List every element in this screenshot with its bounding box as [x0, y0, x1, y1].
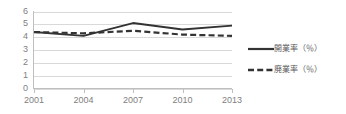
- x-axis-tick-label: 2013: [215, 96, 249, 105]
- y-axis-tick-label: 1: [14, 71, 28, 80]
- legend-swatch-solid-line: [248, 41, 274, 53]
- legend-item-haigyo: 廃業率（％）: [248, 61, 346, 75]
- legend-label-haigyo: 廃業率（％）: [274, 63, 322, 74]
- x-axis-tick-label: 2010: [166, 96, 200, 105]
- x-axis-tick-label: 2004: [67, 96, 101, 105]
- legend-item-kaigyo: 開業率（％）: [248, 40, 346, 54]
- chart-legend: 開業率（％） 廃業率（％）: [248, 40, 346, 80]
- y-axis-tick-label: 2: [14, 58, 28, 67]
- x-axis-tick-label: 2001: [17, 96, 51, 105]
- x-axis-tick-label: 2007: [116, 96, 150, 105]
- plot-area: 0123456 20012004200720102013: [0, 0, 240, 114]
- y-axis-tick-label: 3: [14, 45, 28, 54]
- chart-container: 0123456 20012004200720102013 開業率（％） 廃業率（…: [0, 0, 346, 114]
- legend-swatch-dashed-line: [248, 62, 274, 74]
- y-axis-tick-label: 5: [14, 19, 28, 28]
- y-axis-tick-label: 0: [14, 84, 28, 93]
- y-axis-tick-label: 4: [14, 32, 28, 41]
- gridlines: [34, 13, 232, 90]
- y-axis-tick-label: 6: [14, 7, 28, 16]
- legend-label-kaigyo: 開業率（％）: [274, 42, 322, 53]
